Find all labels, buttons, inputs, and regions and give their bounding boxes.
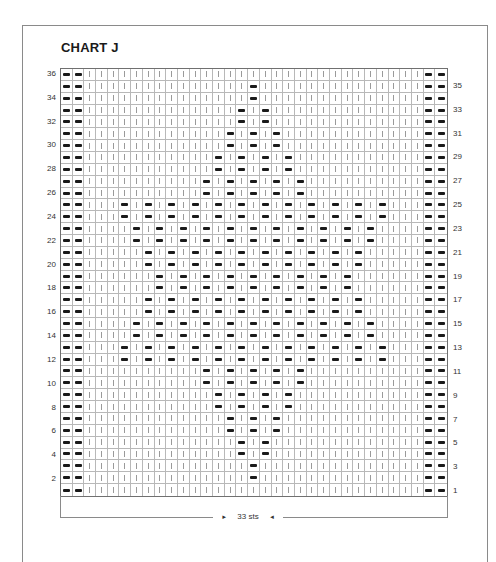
knit-symbol-icon	[148, 475, 149, 481]
chart-cell	[260, 199, 272, 211]
chart-cell	[225, 140, 237, 152]
knit-symbol-icon	[335, 226, 336, 232]
purl-symbol-icon	[344, 322, 351, 325]
chart-cell	[412, 318, 424, 330]
chart-cell	[96, 342, 108, 354]
purl-symbol-icon	[273, 334, 280, 337]
purl-symbol-icon	[285, 203, 292, 206]
chart-cell	[330, 425, 342, 437]
chart-cell	[400, 105, 412, 117]
chart-cell	[330, 93, 342, 105]
knit-symbol-icon	[347, 309, 348, 315]
row-number-12: 12	[36, 355, 56, 365]
purl-symbol-icon	[355, 346, 362, 349]
chart-cell	[377, 484, 389, 496]
knit-symbol-icon	[101, 297, 102, 303]
knit-symbol-icon	[195, 463, 196, 469]
chart-cell	[143, 294, 155, 306]
knit-symbol-icon	[183, 404, 184, 410]
knit-symbol-icon	[358, 119, 359, 125]
chart-cell	[178, 449, 190, 461]
chart-cell	[236, 389, 248, 401]
chart-cell	[73, 235, 85, 247]
knit-symbol-icon	[113, 71, 114, 77]
chart-cell	[178, 294, 190, 306]
knit-symbol-icon	[101, 190, 102, 196]
knit-symbol-icon	[382, 226, 383, 232]
chart-cell	[412, 140, 424, 152]
purl-symbol-icon	[355, 215, 362, 218]
knit-symbol-icon	[136, 166, 137, 172]
purl-symbol-icon	[203, 180, 210, 183]
purl-symbol-icon	[250, 97, 257, 100]
chart-cell	[342, 223, 354, 235]
purl-symbol-icon	[262, 405, 269, 408]
chart-cell	[365, 318, 377, 330]
knit-symbol-icon	[393, 475, 394, 481]
chart-cell	[119, 128, 131, 140]
chart-cell	[412, 306, 424, 318]
chart-cell	[119, 318, 131, 330]
chart-cell	[248, 460, 260, 472]
chart-cell	[155, 69, 167, 81]
chart-cell	[260, 377, 272, 389]
chart-cell	[400, 164, 412, 176]
knit-symbol-icon	[124, 451, 125, 457]
knit-symbol-icon	[311, 392, 312, 398]
knit-symbol-icon	[136, 119, 137, 125]
purl-symbol-icon	[262, 310, 269, 313]
chart-cell	[143, 449, 155, 461]
chart-cell	[295, 437, 307, 449]
knit-symbol-icon	[124, 475, 125, 481]
knit-symbol-icon	[89, 107, 90, 113]
chart-cell	[131, 271, 143, 283]
chart-cell	[248, 188, 260, 200]
chart-cell	[389, 460, 401, 472]
chart-cell	[435, 472, 447, 484]
knit-symbol-icon	[300, 249, 301, 255]
chart-cell	[283, 306, 295, 318]
chart-cell	[365, 247, 377, 259]
knit-symbol-icon	[393, 463, 394, 469]
chart-cell	[131, 223, 143, 235]
chart-cell	[96, 140, 108, 152]
chart-cell	[400, 93, 412, 105]
chart-cell	[213, 425, 225, 437]
knit-symbol-icon	[101, 451, 102, 457]
chart-cell	[389, 271, 401, 283]
chart-cell	[307, 164, 319, 176]
purl-symbol-icon	[332, 298, 339, 301]
chart-cell	[307, 271, 319, 283]
chart-cell	[260, 472, 272, 484]
chart-cell	[236, 81, 248, 93]
knit-symbol-icon	[276, 154, 277, 160]
chart-cell	[84, 116, 96, 128]
purl-symbol-icon	[344, 239, 351, 242]
chart-cell	[73, 152, 85, 164]
purl-symbol-icon	[250, 381, 257, 384]
knit-symbol-icon	[206, 451, 207, 457]
knit-symbol-icon	[265, 190, 266, 196]
chart-cell	[225, 69, 237, 81]
knit-symbol-icon	[288, 83, 289, 89]
purl-symbol-icon	[63, 120, 70, 123]
knit-symbol-icon	[183, 297, 184, 303]
chart-cell	[178, 472, 190, 484]
chart-cell	[119, 199, 131, 211]
chart-cell	[377, 152, 389, 164]
chart-cell	[225, 282, 237, 294]
knit-symbol-icon	[405, 309, 406, 315]
chart-cell	[108, 342, 120, 354]
chart-cell	[131, 472, 143, 484]
chart-cell	[365, 460, 377, 472]
chart-cell	[400, 152, 412, 164]
row-number-33: 33	[453, 105, 473, 115]
knit-symbol-icon	[417, 71, 418, 77]
knit-symbol-icon	[171, 427, 172, 433]
knit-symbol-icon	[300, 214, 301, 220]
chart-cell	[213, 377, 225, 389]
purl-symbol-icon	[75, 417, 82, 420]
chart-cell	[84, 188, 96, 200]
chart-cell	[166, 116, 178, 128]
chart-cell	[377, 271, 389, 283]
